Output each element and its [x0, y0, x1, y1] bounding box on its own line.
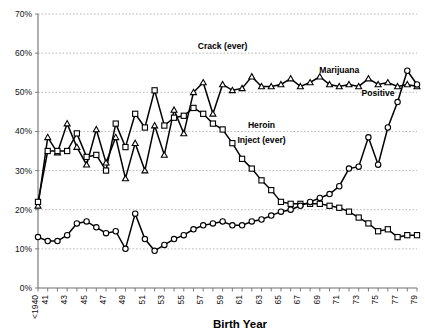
- marker-square: [230, 141, 235, 146]
- series-line-2: [38, 71, 417, 251]
- marker-square: [45, 148, 50, 153]
- marker-circle: [64, 232, 69, 237]
- marker-triangle: [132, 140, 138, 145]
- marker-circle: [327, 191, 332, 196]
- y-tick-label: 30%: [15, 166, 32, 176]
- marker-square: [269, 188, 274, 193]
- annotation-label: Positive: [362, 88, 395, 98]
- marker-square: [317, 201, 322, 206]
- marker-circle: [278, 209, 283, 214]
- annotation-label: Inject (ever): [237, 135, 285, 145]
- marker-square: [346, 209, 351, 214]
- marker-circle: [269, 213, 274, 218]
- marker-circle: [35, 234, 40, 239]
- marker-triangle: [385, 80, 391, 85]
- marker-square: [337, 205, 342, 210]
- marker-circle: [385, 125, 390, 130]
- marker-square: [278, 199, 283, 204]
- marker-triangle: [365, 76, 371, 81]
- marker-circle: [123, 246, 128, 251]
- marker-circle: [259, 217, 264, 222]
- marker-square: [288, 201, 293, 206]
- x-tick-label: 59: [215, 295, 225, 305]
- marker-square: [385, 227, 390, 232]
- marker-circle: [45, 238, 50, 243]
- marker-triangle: [375, 81, 381, 86]
- y-tick-label: 60%: [15, 48, 32, 58]
- marker-circle: [55, 238, 60, 243]
- marker-circle: [152, 248, 157, 253]
- marker-circle: [103, 231, 108, 236]
- marker-triangle: [74, 144, 80, 149]
- marker-square: [133, 111, 138, 116]
- marker-circle: [298, 203, 303, 208]
- marker-square: [249, 166, 254, 171]
- marker-square: [366, 221, 371, 226]
- marker-square: [210, 121, 215, 126]
- y-tick-label: 70%: [15, 9, 32, 19]
- x-axis-tick-labels: <194041434547495153555759616365676971737…: [30, 295, 419, 319]
- marker-triangle: [161, 152, 167, 157]
- marker-circle: [210, 221, 215, 226]
- marker-square: [74, 131, 79, 136]
- marker-square: [103, 168, 108, 173]
- marker-triangle: [200, 80, 206, 85]
- marker-circle: [337, 184, 342, 189]
- marker-square: [35, 199, 40, 204]
- x-tick-label: 75: [370, 295, 380, 305]
- marker-triangle: [307, 80, 313, 85]
- series-line-0: [38, 77, 417, 206]
- annotation-label: Heroin: [248, 120, 275, 130]
- marker-circle: [142, 236, 147, 241]
- x-tick-label: 43: [59, 295, 69, 305]
- marker-square: [376, 229, 381, 234]
- marker-triangle: [346, 81, 352, 86]
- axes: [35, 14, 417, 292]
- marker-triangle: [220, 81, 226, 86]
- x-tick-label: 77: [390, 295, 400, 305]
- marker-square: [84, 154, 89, 159]
- annotation-label: Marijuana: [319, 65, 359, 75]
- series-lines: [38, 71, 417, 251]
- marker-square: [94, 152, 99, 157]
- marker-circle: [181, 232, 186, 237]
- marker-circle: [201, 223, 206, 228]
- line-chart: 0%10%20%30%40%50%60%70% <194041434547495…: [0, 0, 425, 336]
- series-annotations: Crack (ever)HeroinInject (ever)Marijuana…: [198, 41, 395, 145]
- marker-circle: [113, 229, 118, 234]
- marker-square: [239, 156, 244, 161]
- marker-square: [405, 233, 410, 238]
- marker-triangle: [404, 81, 410, 86]
- x-tick-label: <1940: [30, 295, 40, 319]
- marker-triangle: [152, 123, 158, 128]
- x-tick-label: 71: [331, 295, 341, 305]
- marker-square: [191, 105, 196, 110]
- marker-circle: [249, 219, 254, 224]
- marker-circle: [405, 68, 410, 73]
- x-tick-label: 55: [176, 295, 186, 305]
- marker-square: [55, 148, 60, 153]
- marker-square: [259, 178, 264, 183]
- marker-square: [123, 144, 128, 149]
- marker-circle: [191, 227, 196, 232]
- marker-triangle: [142, 168, 148, 173]
- x-tick-label: 45: [79, 295, 89, 305]
- marker-square: [113, 121, 118, 126]
- marker-circle: [162, 242, 167, 247]
- marker-circle: [74, 221, 79, 226]
- marker-circle: [220, 219, 225, 224]
- marker-triangle: [64, 121, 70, 126]
- y-tick-label: 20%: [15, 205, 32, 215]
- y-tick-label: 0%: [20, 283, 33, 293]
- marker-circle: [356, 164, 361, 169]
- marker-triangle: [395, 83, 401, 88]
- marker-triangle: [210, 111, 216, 116]
- marker-triangle: [249, 74, 255, 79]
- x-tick-label: 53: [156, 295, 166, 305]
- marker-circle: [132, 211, 137, 216]
- x-tick-label: 73: [351, 295, 361, 305]
- marker-square: [152, 88, 157, 93]
- marker-circle: [375, 162, 380, 167]
- marker-triangle: [268, 83, 274, 88]
- x-tick-label: 63: [254, 295, 264, 305]
